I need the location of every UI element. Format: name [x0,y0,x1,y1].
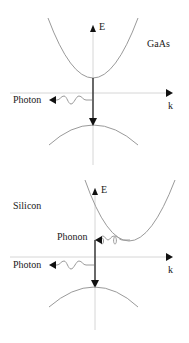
silicon-photon-arrowhead-icon [49,261,56,269]
band-diagram-canvas [0,0,189,343]
silicon-phonon-wave [101,236,130,244]
gaas-photon-wave [55,96,92,104]
silicon-photon-label: Photon [13,260,41,270]
silicon-valence-band-curve [49,287,138,307]
gaas-photon-arrowhead-icon [49,96,56,104]
silicon-phonon-label: Phonon [57,232,88,242]
gaas-e-axis-arrowhead-icon [90,25,96,32]
silicon-material-label: Silicon [13,201,41,211]
silicon-photon-wave [55,261,94,269]
gaas-e-axis-label: E [99,22,105,32]
gaas-photon-label: Photon [13,95,41,105]
silicon-k-axis-label: k [168,265,173,275]
gaas-material-label: GaAs [147,39,170,49]
silicon-e-axis-label: E [101,185,107,195]
silicon-e-axis-arrowhead-icon [92,188,98,195]
silicon-phonon-arrowhead-icon [95,236,102,244]
silicon-conduction-band-curve [85,180,175,241]
silicon-k-axis-arrowhead-icon [166,253,173,261]
gaas-k-axis-arrowhead-icon [166,89,173,97]
gaas-k-axis-label: k [168,101,173,111]
